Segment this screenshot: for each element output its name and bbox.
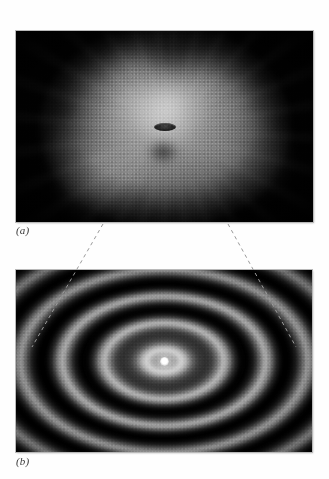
panel-b-interference-rings bbox=[16, 270, 312, 452]
panel-a-caption: (a) bbox=[16, 224, 29, 236]
panel-a-image bbox=[16, 31, 313, 222]
figure-root: (a) (b) bbox=[0, 0, 329, 479]
speckle-noise-texture bbox=[16, 270, 312, 452]
field-vignette bbox=[16, 31, 313, 222]
panel-b-image bbox=[16, 270, 312, 452]
panel-b-caption: (b) bbox=[16, 455, 29, 467]
panel-a-diffuse-halo bbox=[16, 31, 313, 222]
